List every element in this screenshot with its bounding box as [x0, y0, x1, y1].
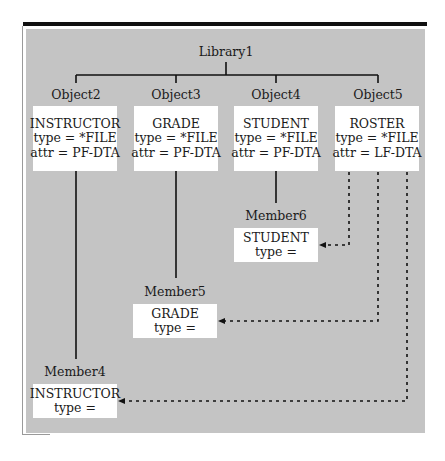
object3-label: Object3 — [151, 88, 201, 102]
object-type: type = *FILE — [335, 131, 418, 146]
member-type: type = — [154, 321, 196, 336]
member-name: INSTRUCTOR — [30, 387, 120, 402]
object-attr: attr = PF-DTA — [231, 146, 320, 161]
object-name: GRADE — [152, 117, 200, 132]
object-type: type = *FILE — [134, 131, 217, 146]
member4-box: INSTRUCTOR type = — [33, 384, 117, 418]
member5-box: GRADE type = — [133, 304, 217, 338]
object-name: STUDENT — [243, 117, 309, 132]
object-type: type = *FILE — [33, 131, 116, 146]
member6-box: STUDENT type = — [234, 228, 318, 262]
object3-box: GRADE type = *FILE attr = PF-DTA — [134, 106, 218, 171]
member6-label: Member6 — [245, 209, 306, 223]
member-name: STUDENT — [243, 231, 309, 246]
object-name: ROSTER — [349, 117, 404, 132]
object4-label: Object4 — [251, 88, 301, 102]
object-attr: attr = PF-DTA — [30, 146, 119, 161]
library-label: Library1 — [199, 45, 254, 59]
object-attr: attr = PF-DTA — [131, 146, 220, 161]
object2-label: Object2 — [51, 88, 101, 102]
object-type: type = *FILE — [234, 131, 317, 146]
member-type: type = — [255, 245, 297, 260]
member4-label: Member4 — [44, 365, 105, 379]
object5-box: ROSTER type = *FILE attr = LF-DTA — [335, 106, 419, 171]
member5-label: Member5 — [144, 285, 205, 299]
object5-label: Object5 — [353, 88, 403, 102]
object2-box: INSTRUCTOR type = *FILE attr = PF-DTA — [33, 106, 117, 171]
member-name: GRADE — [151, 307, 199, 322]
object-attr: attr = LF-DTA — [332, 146, 421, 161]
object-name: INSTRUCTOR — [30, 117, 120, 132]
object4-box: STUDENT type = *FILE attr = PF-DTA — [234, 106, 318, 171]
member-type: type = — [54, 401, 96, 416]
